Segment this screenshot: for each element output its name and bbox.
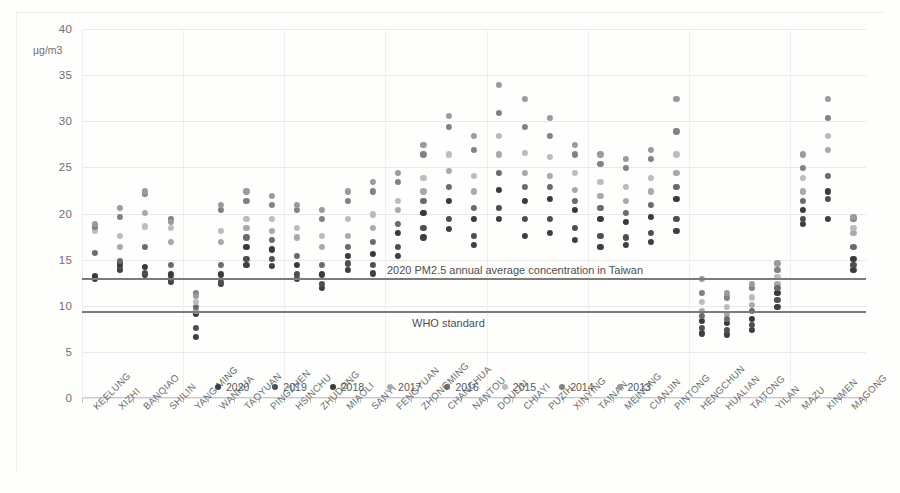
data-point bbox=[446, 226, 452, 232]
data-point bbox=[471, 133, 477, 139]
data-point bbox=[572, 151, 578, 157]
data-point bbox=[572, 142, 578, 148]
reference-line-label: 2020 PM2.5 annual average concentration … bbox=[387, 264, 643, 276]
data-point bbox=[218, 262, 224, 268]
data-point bbox=[623, 197, 629, 203]
legend-item[interactable]: 2018 bbox=[330, 381, 364, 393]
data-point bbox=[724, 304, 730, 310]
data-point bbox=[420, 151, 426, 157]
data-point bbox=[294, 234, 300, 240]
data-point bbox=[774, 260, 780, 266]
data-point bbox=[699, 330, 705, 336]
legend-item[interactable]: 2013 bbox=[617, 381, 651, 393]
data-point bbox=[344, 260, 350, 266]
data-point bbox=[420, 225, 426, 231]
data-point bbox=[648, 174, 654, 180]
data-point bbox=[623, 242, 629, 248]
data-point bbox=[344, 197, 350, 203]
data-point bbox=[294, 262, 300, 268]
data-point bbox=[395, 253, 401, 259]
y-axis-tick-label: 5 bbox=[65, 346, 72, 358]
data-point bbox=[825, 96, 831, 102]
data-point bbox=[572, 197, 578, 203]
legend-item[interactable]: 2016 bbox=[444, 381, 478, 393]
data-point bbox=[825, 216, 831, 222]
data-point bbox=[496, 110, 502, 116]
data-point bbox=[648, 202, 654, 208]
legend-label: 2017 bbox=[398, 381, 421, 393]
legend-label: 2019 bbox=[283, 381, 306, 393]
data-point bbox=[370, 211, 376, 217]
data-point bbox=[648, 188, 654, 194]
data-point bbox=[395, 197, 401, 203]
data-point bbox=[370, 262, 376, 268]
data-point bbox=[521, 150, 527, 156]
y-gridline bbox=[82, 75, 866, 76]
data-point bbox=[471, 242, 477, 248]
y-axis: 0510152025303540 bbox=[30, 29, 72, 398]
data-point bbox=[420, 142, 426, 148]
data-point bbox=[774, 267, 780, 273]
data-point bbox=[319, 262, 325, 268]
data-point bbox=[167, 219, 173, 225]
data-point bbox=[597, 233, 603, 239]
data-point bbox=[269, 193, 275, 199]
x-gridline bbox=[82, 29, 83, 398]
data-point bbox=[395, 207, 401, 213]
data-point bbox=[319, 233, 325, 239]
data-point bbox=[167, 239, 173, 245]
legend-marker-icon bbox=[559, 384, 565, 390]
y-axis-tick-label: 40 bbox=[59, 23, 72, 35]
y-gridline bbox=[82, 121, 866, 122]
data-point bbox=[749, 294, 755, 300]
x-gridline bbox=[487, 29, 488, 398]
data-point bbox=[218, 239, 224, 245]
legend-label: 2020 bbox=[226, 381, 249, 393]
data-point bbox=[319, 244, 325, 250]
data-point bbox=[294, 225, 300, 231]
data-point bbox=[496, 151, 502, 157]
legend-item[interactable]: 2020 bbox=[215, 381, 249, 393]
legend-label: 2018 bbox=[341, 381, 364, 393]
data-point bbox=[597, 244, 603, 250]
legend-label: 2016 bbox=[455, 381, 478, 393]
legend-item[interactable]: 2019 bbox=[272, 381, 306, 393]
legend-item[interactable]: 2017 bbox=[387, 381, 421, 393]
legend-marker-icon bbox=[215, 384, 221, 390]
data-point bbox=[648, 156, 654, 162]
data-point bbox=[269, 246, 275, 252]
data-point bbox=[597, 205, 603, 211]
data-point bbox=[825, 196, 831, 202]
data-point bbox=[673, 196, 679, 202]
data-point bbox=[243, 244, 249, 250]
data-point bbox=[673, 228, 679, 234]
y-gridline bbox=[82, 29, 866, 30]
data-point bbox=[521, 184, 527, 190]
data-point bbox=[623, 156, 629, 162]
legend-label: 2014 bbox=[570, 381, 593, 393]
data-point bbox=[850, 256, 856, 262]
data-point bbox=[269, 237, 275, 243]
x-gridline bbox=[689, 29, 690, 398]
y-axis-tick-label: 30 bbox=[59, 115, 72, 127]
data-point bbox=[800, 151, 806, 157]
data-point bbox=[547, 216, 553, 222]
data-point bbox=[395, 170, 401, 176]
legend-item[interactable]: 2014 bbox=[559, 381, 593, 393]
data-point bbox=[699, 325, 705, 331]
data-point bbox=[420, 209, 426, 215]
data-point bbox=[825, 147, 831, 153]
data-point bbox=[774, 297, 780, 303]
chart-figure: µg/m3 0510152025303540 2020 PM2.5 annual… bbox=[0, 0, 900, 493]
data-point bbox=[673, 96, 679, 102]
legend-marker-icon bbox=[502, 384, 508, 390]
data-point bbox=[395, 244, 401, 250]
data-point bbox=[496, 205, 502, 211]
y-axis-tick-label: 15 bbox=[59, 254, 72, 266]
x-axis-labels: KEELUNGXIZHIBANQIAOSHILINYANG MINGWANHUA… bbox=[82, 398, 866, 493]
legend-item[interactable]: 2015 bbox=[502, 381, 536, 393]
data-point bbox=[344, 253, 350, 259]
data-point bbox=[370, 188, 376, 194]
data-point bbox=[471, 216, 477, 222]
x-gridline bbox=[588, 29, 589, 398]
